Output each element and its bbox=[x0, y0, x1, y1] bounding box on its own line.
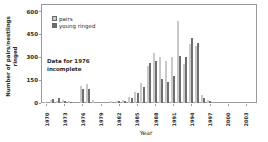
bar-young-1995 bbox=[197, 43, 199, 103]
bar-young-1974 bbox=[70, 102, 72, 103]
y-tick-label-0: 0 bbox=[23, 100, 38, 106]
x-tick-mark-1985 bbox=[137, 104, 138, 106]
y-tick-mark-150 bbox=[39, 80, 41, 81]
bar-young-1983 bbox=[124, 101, 126, 103]
bar-pairs-1981 bbox=[110, 101, 112, 103]
x-tick-label-1970: 1970 bbox=[43, 108, 49, 127]
x-tick-label-2000: 2000 bbox=[225, 108, 231, 127]
legend-swatch-pairs bbox=[52, 16, 57, 21]
y-tick-mark-0 bbox=[39, 103, 41, 104]
y-axis-title-line2: ringed bbox=[11, 12, 18, 102]
annotation-line2: incomplete bbox=[47, 66, 90, 74]
bar-young-1985 bbox=[137, 93, 139, 103]
y-tick-label-450: 450 bbox=[23, 31, 38, 37]
legend-label-pairs: pairs bbox=[59, 16, 73, 22]
x-tick-mark-1997 bbox=[210, 104, 211, 106]
x-tick-mark-2003 bbox=[246, 104, 247, 106]
bar-young-1984 bbox=[131, 98, 133, 103]
x-tick-mark-2000 bbox=[228, 104, 229, 106]
legend-swatch-young-ringed bbox=[52, 23, 57, 28]
bar-young-1996 bbox=[203, 98, 205, 103]
bar-young-1976 bbox=[82, 89, 84, 103]
x-tick-mark-1976 bbox=[82, 104, 83, 106]
chart-figure: Number of pairs/nestlings ringed pairs y… bbox=[0, 0, 268, 142]
bar-young-1990 bbox=[167, 82, 169, 103]
y-tick-mark-600 bbox=[39, 11, 41, 12]
x-tick-mark-1970 bbox=[46, 104, 47, 106]
x-tick-label-1985: 1985 bbox=[134, 108, 140, 127]
y-tick-label-600: 600 bbox=[23, 9, 38, 15]
y-tick-mark-450 bbox=[39, 34, 41, 35]
legend-label-young-ringed: young ringed bbox=[59, 23, 95, 29]
y-axis-title-line1: Number of pairs/nestlings bbox=[5, 12, 12, 102]
bar-young-1991 bbox=[173, 76, 175, 103]
x-tick-label-2003: 2003 bbox=[243, 108, 249, 127]
bar-young-1988 bbox=[155, 61, 157, 103]
y-axis-title: Number of pairs/nestlings ringed bbox=[5, 12, 18, 102]
bar-young-1987 bbox=[149, 63, 151, 103]
x-tick-label-1982: 1982 bbox=[116, 108, 122, 127]
x-tick-label-1988: 1988 bbox=[152, 108, 158, 127]
bar-young-1982 bbox=[118, 101, 120, 103]
annotation-line1: Data for 1976 bbox=[47, 58, 90, 66]
bar-pairs-1978 bbox=[92, 100, 94, 103]
x-tick-mark-1988 bbox=[155, 104, 156, 106]
bar-young-1992 bbox=[179, 56, 181, 103]
x-tick-mark-1979 bbox=[101, 104, 102, 106]
x-tick-label-1973: 1973 bbox=[61, 108, 67, 127]
x-axis-title: Year bbox=[110, 129, 182, 136]
legend: pairs young ringed bbox=[52, 15, 95, 29]
bar-young-1986 bbox=[143, 87, 145, 103]
annotation-note: Data for 1976 incomplete bbox=[47, 58, 90, 73]
y-tick-label-150: 150 bbox=[23, 77, 38, 83]
y-tick-label-300: 300 bbox=[23, 54, 38, 60]
x-tick-mark-1973 bbox=[64, 104, 65, 106]
x-tick-label-1991: 1991 bbox=[170, 108, 176, 127]
bar-young-1993 bbox=[185, 57, 187, 103]
legend-row-young-ringed: young ringed bbox=[52, 22, 95, 29]
x-tick-mark-1994 bbox=[191, 104, 192, 106]
y-tick-mark-300 bbox=[39, 57, 41, 58]
bar-young-1994 bbox=[191, 38, 193, 103]
x-tick-label-1994: 1994 bbox=[188, 108, 194, 127]
x-tick-label-1976: 1976 bbox=[79, 108, 85, 127]
x-tick-label-1997: 1997 bbox=[207, 108, 213, 127]
bar-young-1973 bbox=[64, 101, 66, 103]
x-tick-mark-1991 bbox=[173, 104, 174, 106]
bar-young-1997 bbox=[209, 101, 211, 103]
x-tick-mark-1982 bbox=[119, 104, 120, 106]
bar-young-1972 bbox=[58, 98, 60, 103]
x-tick-label-1979: 1979 bbox=[98, 108, 104, 127]
bar-young-1971 bbox=[52, 99, 54, 103]
bar-young-1989 bbox=[161, 79, 163, 103]
bar-pairs-1970 bbox=[44, 102, 46, 103]
bar-young-1977 bbox=[88, 89, 90, 103]
legend-row-pairs: pairs bbox=[52, 15, 95, 22]
